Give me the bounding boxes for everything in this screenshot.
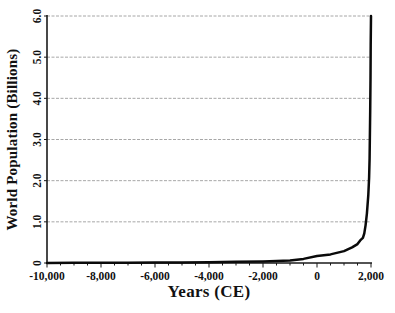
x-tick-label: -4,000 xyxy=(194,270,224,282)
x-tick-label: -2,000 xyxy=(248,270,278,282)
y-tick-label: 6.0 xyxy=(31,9,43,24)
x-tick-label: -8,000 xyxy=(86,270,116,282)
y-tick-label: 4.0 xyxy=(31,91,43,106)
y-tick-label: 3.0 xyxy=(31,132,43,147)
population-chart-plot: -10,000-8,000-6,000-4,000-2,00002,00001.… xyxy=(0,0,395,313)
y-tick-label: 1.0 xyxy=(31,214,43,229)
y-tick-label: 5.0 xyxy=(31,50,43,65)
x-tick-label: -6,000 xyxy=(140,270,170,282)
world-population-chart-figure: -10,000-8,000-6,000-4,000-2,00002,00001.… xyxy=(0,0,395,313)
y-tick-label: 2.0 xyxy=(31,173,43,188)
x-tick-label: -10,000 xyxy=(29,270,65,282)
x-axis-title: Years (CE) xyxy=(47,282,371,302)
y-axis-title: World Population (Billions) xyxy=(4,15,23,265)
x-tick-label: 2,000 xyxy=(358,270,384,282)
x-tick-label: 0 xyxy=(314,270,320,282)
y-tick-label: 0 xyxy=(31,260,43,266)
